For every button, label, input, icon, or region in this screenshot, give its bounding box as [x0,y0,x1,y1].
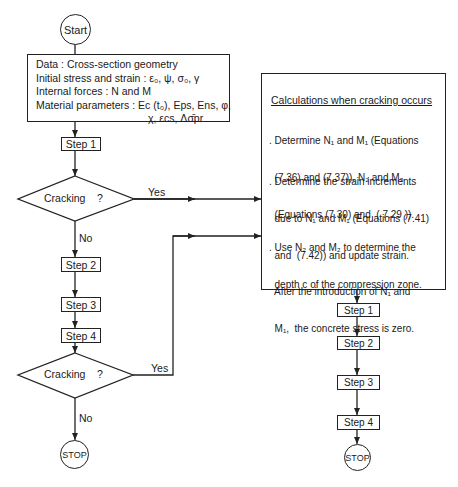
decision-1-yes-label: Yes [148,186,165,198]
decision-1-label: Cracking ? [44,192,103,204]
right-step-2: Step 2 [337,336,380,350]
data-line-internal-forces: Internal forces : N and M [36,85,229,99]
input-data-box: Data : Cross-section geometry Initial st… [27,54,230,122]
decision-2-yes-label: Yes [151,362,168,374]
left-step-2: Step 2 [61,257,101,272]
data-line-initial-stress: Initial stress and strain : ε₀, ψ, σ₀, γ [36,72,229,86]
left-step-4: Step 4 [61,328,101,343]
right-step-4: Step 4 [337,415,380,430]
start-label: Start [64,24,87,36]
left-step-3: Step 3 [61,297,101,312]
data-line-geometry: Data : Cross-section geometry [36,58,229,72]
data-line-material-parameters: Material parameters : Ec (t₀), Eps, Ens,… [36,99,229,113]
decision-1-no-label: No [79,232,92,244]
decision-2-no-label: No [79,412,92,424]
decision-2-label: Cracking ? [44,368,103,380]
calc-bullet-3: . Use N₂ and M₂ to determine the depth c… [269,218,422,316]
cracking-calculations-box: Calculations when cracking occurs . Dete… [261,73,446,290]
calc-box-title: Calculations when cracking occurs [271,94,432,106]
right-step-1: Step 1 [337,303,380,317]
left-stop-terminal: STOP [60,440,89,469]
start-terminal: Start [60,14,91,45]
left-step-1: Step 1 [61,137,101,151]
right-step-3: Step 3 [337,375,380,390]
right-stop-terminal: STOP [344,444,371,471]
data-line-material-parameters-cont: χ, εcs, Δσ̄pr [36,112,229,126]
